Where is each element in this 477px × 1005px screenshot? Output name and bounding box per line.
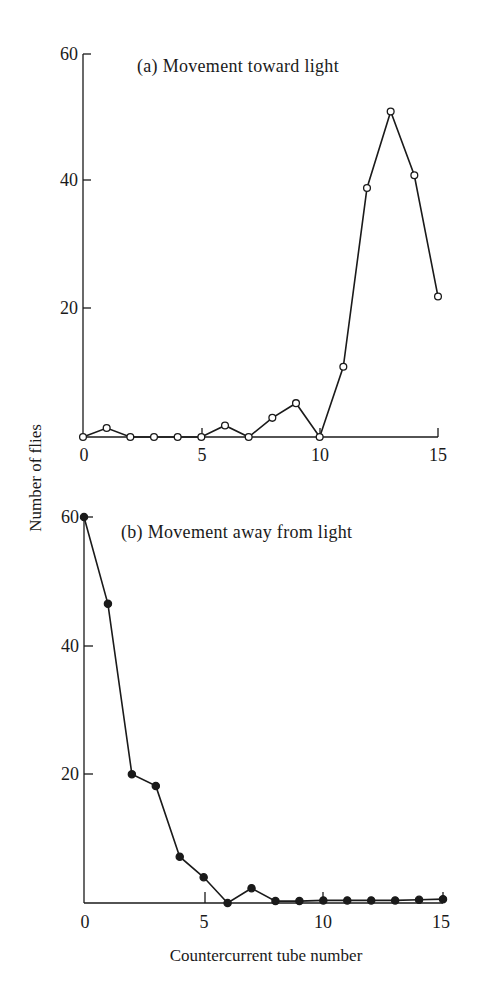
x-tick-label: 15 [432, 912, 450, 932]
x-tick-label: 10 [311, 445, 329, 465]
panel-a-title: (a) Movement toward light [137, 56, 339, 77]
data-point [176, 853, 183, 860]
data-point [316, 434, 323, 441]
x-tick-label: 5 [198, 445, 207, 465]
data-point [344, 897, 351, 904]
data-point [128, 771, 135, 778]
data-point [439, 896, 446, 903]
x-tick-label: 15 [429, 445, 447, 465]
y-tick-label: 40 [61, 636, 79, 656]
data-point [222, 422, 229, 429]
x-ticks-a: 0 5 10 15 [80, 428, 448, 465]
data-point [435, 293, 442, 300]
series-line-b [84, 517, 443, 903]
data-point [103, 425, 110, 432]
series-markers-b [80, 513, 446, 906]
data-point [296, 897, 303, 904]
x-tick-label: 10 [314, 912, 332, 932]
y-tick-label: 20 [60, 298, 78, 318]
data-point [269, 414, 276, 421]
series-line-a [83, 111, 438, 437]
y-tick-label: 40 [60, 170, 78, 190]
x-tick-label: 0 [80, 445, 89, 465]
y-tick-label: 20 [61, 764, 79, 784]
data-point [248, 885, 255, 892]
data-point [392, 897, 399, 904]
data-point [224, 899, 231, 906]
panel-a: 60 40 20 0 5 10 15 (a) Movement toward l… [60, 44, 447, 465]
x-tick-label: 0 [81, 912, 90, 932]
data-point [200, 874, 207, 881]
data-point [80, 434, 87, 441]
data-point [104, 600, 111, 607]
data-point [364, 185, 371, 192]
data-point [152, 782, 159, 789]
data-point [245, 434, 252, 441]
data-point [411, 172, 418, 179]
data-point [387, 108, 394, 115]
y-axis-title: Number of flies [26, 424, 45, 532]
data-point [293, 400, 300, 407]
series-markers-a [80, 108, 442, 440]
data-point [320, 897, 327, 904]
y-ticks-a: 60 40 20 [60, 44, 91, 318]
data-point [415, 896, 422, 903]
data-point [368, 897, 375, 904]
y-tick-label: 60 [60, 44, 78, 64]
y-ticks-b: 60 40 20 [61, 507, 93, 784]
figure: Number of flies 60 40 20 0 5 10 15 (a) M… [0, 0, 477, 1005]
y-tick-label: 60 [61, 507, 79, 527]
data-point [198, 434, 205, 441]
data-point [80, 513, 87, 520]
data-point [340, 363, 347, 370]
panel-b: 60 40 20 0 5 10 15 (b) Movement away fro… [61, 507, 450, 932]
data-point [127, 434, 134, 441]
x-axis-title: Countercurrent tube number [170, 946, 363, 965]
data-point [151, 434, 158, 441]
data-point [272, 897, 279, 904]
data-point [174, 434, 181, 441]
panel-b-title: (b) Movement away from light [121, 522, 352, 543]
x-tick-label: 5 [200, 912, 209, 932]
